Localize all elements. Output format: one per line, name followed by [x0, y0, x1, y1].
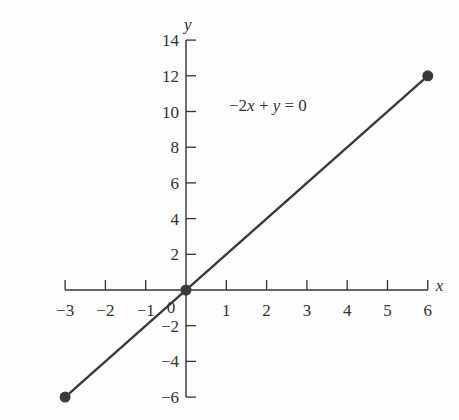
y-tick-label: 6	[171, 174, 180, 193]
ticks	[65, 40, 428, 397]
y-tick-label: 10	[162, 103, 179, 122]
chart-container: −3−2−10123456−6−4−22468101214 x y −2x + …	[0, 0, 459, 420]
y-tick-label: 2	[171, 245, 180, 264]
y-axis-label: y	[182, 15, 192, 34]
x-tick-label: 3	[303, 301, 312, 320]
y-tick-label: 4	[171, 210, 180, 229]
data-point	[422, 70, 433, 81]
y-tick-label: 12	[162, 67, 179, 86]
axes	[65, 40, 428, 397]
y-tick-label: −4	[161, 352, 180, 371]
data-point	[181, 285, 192, 296]
x-tick-label: 1	[222, 301, 231, 320]
series-line	[65, 76, 428, 397]
x-tick-label: 6	[424, 301, 433, 320]
line-chart: −3−2−10123456−6−4−22468101214 x y −2x + …	[0, 0, 459, 420]
x-tick-label: −1	[137, 301, 155, 320]
equation-annotation: −2x + y = 0	[229, 96, 307, 115]
x-axis-label: x	[435, 276, 444, 295]
y-tick-label: −6	[161, 388, 179, 407]
x-tick-label: −2	[96, 301, 114, 320]
x-tick-label: 2	[262, 301, 271, 320]
data-point	[60, 392, 71, 403]
x-tick-label: 5	[383, 301, 392, 320]
tick-labels: −3−2−10123456−6−4−22468101214	[56, 31, 432, 407]
y-tick-label: 14	[162, 31, 180, 50]
x-tick-label: −3	[56, 301, 74, 320]
y-tick-label: −2	[161, 317, 179, 336]
series	[65, 76, 428, 397]
x-tick-label: 4	[343, 301, 352, 320]
y-tick-label: 8	[171, 138, 180, 157]
